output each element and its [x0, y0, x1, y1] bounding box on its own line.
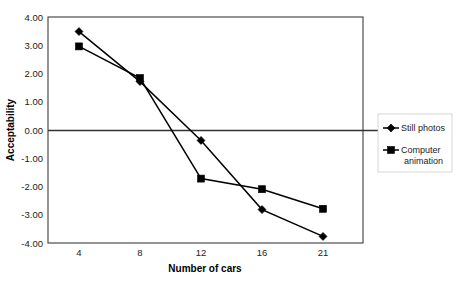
- y-tick-label: 4.00: [25, 12, 44, 23]
- y-axis-tick-labels: 4.00 3.00 2.00 1.00 0.00 -1.00 -2.00 -3.…: [21, 12, 43, 249]
- x-tick-label: 16: [257, 247, 268, 258]
- legend-label: Computer: [401, 145, 441, 155]
- data-point-marker: [320, 205, 327, 212]
- legend-label: Still photos: [401, 123, 446, 133]
- legend-label: animation: [404, 156, 443, 166]
- x-tick-label: 21: [318, 247, 329, 258]
- y-tick-label: -3.00: [21, 209, 43, 220]
- y-tick-label: 2.00: [25, 68, 44, 79]
- data-point-marker: [259, 186, 266, 193]
- chart-legend: Still photos Computer animation: [378, 114, 452, 172]
- x-tick-label: 4: [76, 247, 81, 258]
- x-axis-title: Number of cars: [168, 263, 242, 274]
- square-marker-icon: [388, 147, 395, 154]
- y-tick-label: 1.00: [25, 96, 44, 107]
- y-tick-label: -4.00: [21, 238, 43, 249]
- data-point-marker: [198, 175, 205, 182]
- y-axis-title: Acceptability: [5, 98, 16, 161]
- data-point-marker: [76, 43, 83, 50]
- y-tick-label: -1.00: [21, 153, 43, 164]
- x-tick-label: 12: [196, 247, 207, 258]
- y-tick-label: 0.00: [25, 125, 44, 136]
- y-tick-label: 3.00: [25, 40, 44, 51]
- line-chart: 4.00 3.00 2.00 1.00 0.00 -1.00 -2.00 -3.…: [0, 0, 456, 283]
- y-tick-label: -2.00: [21, 181, 43, 192]
- x-tick-label: 8: [137, 247, 142, 258]
- chart-figure: 4.00 3.00 2.00 1.00 0.00 -1.00 -2.00 -3.…: [0, 0, 456, 283]
